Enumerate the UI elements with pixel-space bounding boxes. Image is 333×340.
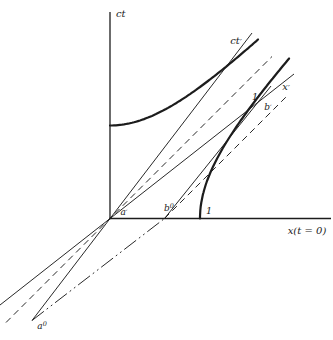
x-prime-axis-label: x′ xyxy=(282,81,290,92)
ct-prime-axis xyxy=(32,33,252,321)
unit-x-label: 1 xyxy=(206,205,212,216)
ct-axis-label: ct xyxy=(116,8,127,19)
time-calibration-hyperbola xyxy=(110,40,258,126)
x-axis-label: x(t = 0) xyxy=(288,225,327,236)
ct-prime-axis-label: ct′ xyxy=(230,35,242,46)
b-worldline xyxy=(165,86,272,219)
spacetime-diagram-canvas: ctct′x′x(t = 0)a′b011b′a0 xyxy=(0,0,333,340)
spacetime-diagram-figure: ctct′x′x(t = 0)a′b011b′a0 xyxy=(0,0,333,340)
a0-label: a0 xyxy=(37,320,47,331)
b0-label: b0 xyxy=(164,202,174,213)
b-prime-label: b′ xyxy=(264,102,272,112)
light-ray-b0 xyxy=(165,97,287,219)
unit-xprime-label: 1 xyxy=(252,91,258,102)
a-prime-label: a′ xyxy=(120,207,127,217)
light-ray-origin xyxy=(6,57,272,323)
